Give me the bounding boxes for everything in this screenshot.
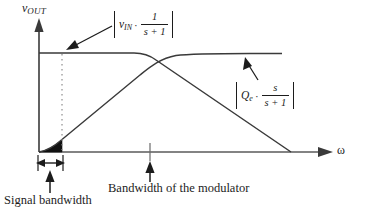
modulator-bandwidth-caption: Bandwidth of the modulator	[108, 182, 249, 195]
noise-transfer-function-label: Qe · s s + 1	[236, 82, 294, 109]
signal-transfer-leader-arrow	[66, 26, 112, 50]
y-axis-label: vOUT	[22, 2, 46, 16]
signal-transfer-numerator: 1	[149, 11, 160, 24]
noise-transfer-numerator: s	[270, 82, 280, 95]
noise-transfer-operator: ·	[253, 90, 262, 102]
transfer-function-figure: vOUT ω vIN · 1 s + 1 Qe · s s + 1	[0, 0, 370, 220]
noise-transfer-leader-arrow	[243, 57, 258, 80]
in-band-noise-shading	[39, 140, 62, 153]
signal-transfer-variable-subscript: IN	[124, 23, 132, 32]
signal-transfer-denominator: s + 1	[141, 25, 169, 38]
noise-transfer-expression: Qe · s s + 1	[237, 82, 293, 109]
x-axis-label: ω	[337, 144, 345, 156]
signal-transfer-operator: ·	[132, 19, 141, 31]
noise-transfer-denominator: s + 1	[262, 96, 290, 109]
abs-bar-right	[293, 82, 294, 109]
x-axis	[39, 147, 333, 157]
signal-transfer-function-label: vIN · 1 s + 1	[114, 11, 173, 38]
y-axis-label-subscript: OUT	[27, 6, 46, 16]
signal-bandwidth-callout-arrow	[45, 170, 54, 193]
signal-bandwidth-caption: Signal bandwidth	[4, 194, 92, 207]
noise-transfer-fraction: s s + 1	[262, 82, 290, 109]
signal-bandwidth-arrow	[36, 155, 65, 171]
y-axis	[34, 18, 43, 152]
noise-transfer-variable: Qe	[241, 89, 253, 103]
abs-bar-right	[172, 11, 173, 38]
signal-transfer-expression: vIN · 1 s + 1	[115, 11, 172, 38]
modulator-bandwidth-callout-arrow	[145, 161, 154, 182]
signal-transfer-variable: vIN	[119, 18, 132, 32]
signal-transfer-fraction: 1 s + 1	[141, 11, 169, 38]
